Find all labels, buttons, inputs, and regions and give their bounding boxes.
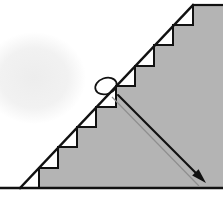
figure-root <box>0 0 223 201</box>
staircase-triangle-figure <box>0 0 223 201</box>
